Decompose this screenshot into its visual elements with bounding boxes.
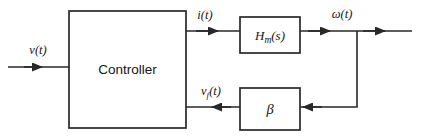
- block-plant-label-tail: (s): [271, 28, 285, 43]
- signal-label-feedback-tail: (t): [209, 84, 221, 98]
- block-plant-label-main: H: [254, 28, 265, 43]
- block-diagram-canvas: Controller Hm(s) β v(t) i(t) ω(t) vf(t): [0, 0, 421, 137]
- signal-label-speed-main: ω: [332, 7, 341, 21]
- signal-label-input-tail: (t): [35, 43, 47, 57]
- signal-label-feedback: vf(t): [201, 84, 221, 100]
- signal-label-current-tail: (t): [201, 8, 213, 22]
- signal-label-speed: ω(t): [332, 7, 353, 21]
- block-controller-label: Controller: [98, 62, 157, 77]
- block-feedback-gain-label: β: [265, 101, 274, 117]
- wire-output-tap-to-feedback: [300, 31, 357, 107]
- signal-label-current: i(t): [197, 8, 212, 22]
- signal-label-speed-tail: (t): [341, 7, 353, 21]
- signal-label-input: v(t): [29, 43, 46, 57]
- block-diagram-svg: Controller Hm(s) β v(t) i(t) ω(t) vf(t): [0, 0, 421, 137]
